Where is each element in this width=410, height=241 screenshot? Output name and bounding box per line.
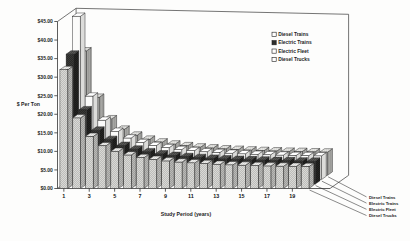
bar-diesel-trains-p12: [200, 160, 213, 188]
bar-diesel-trains-p3: [85, 133, 98, 188]
chart-canvas: $0.00$5.00$10.00$15.00$20.00$25.00$30.00…: [0, 0, 410, 241]
bar-diesel-trains-p18: [276, 163, 289, 189]
bar-diesel-trains-p7: [136, 154, 149, 188]
x-axis-title: Study Period (years): [161, 211, 212, 217]
legend-label: Electric Fleet: [278, 49, 309, 54]
legend-label: Diesel Trains: [278, 32, 308, 37]
bar-diesel-trains-p6: [123, 152, 136, 189]
chart-screenshot: $0.00$5.00$10.00$15.00$20.00$25.00$30.00…: [0, 0, 410, 241]
bar-diesel-trains-p19: [288, 163, 301, 189]
x-tick-label: 9: [164, 193, 167, 199]
legend-item-diesel-trains: Diesel Trains: [272, 32, 309, 37]
side-label-text: Electric Trains: [369, 201, 399, 206]
legend-label: Diesel Trucks: [278, 57, 310, 62]
legend-item-diesel-trucks: Diesel Trucks: [272, 57, 310, 62]
bar-diesel-trains-p16: [250, 162, 263, 188]
y-tick-label: $5.00: [40, 167, 53, 173]
x-tick-label: 15: [239, 193, 245, 199]
bar-diesel-trains-p17: [263, 163, 276, 189]
series-side-labels: Diesel TrainsElectric TrainsElectric Fle…: [309, 177, 398, 218]
y-tick-label: $10.00: [38, 148, 54, 154]
y-axis-title: $ Per Ton: [17, 101, 40, 107]
x-tick-label: 13: [213, 193, 219, 199]
y-tick-label: $35.00: [38, 55, 54, 61]
y-tick-label: $40.00: [38, 37, 54, 43]
x-tick-label: 1: [62, 193, 65, 199]
bar-diesel-trains-p5: [111, 148, 124, 189]
x-tick-label: 5: [113, 193, 116, 199]
bar-diesel-trains-p15: [238, 162, 251, 189]
x-tick-label: 11: [188, 193, 194, 199]
legend-item-electric-trains: Electric Trains: [272, 40, 312, 45]
bar-diesel-trains-p1: [60, 66, 73, 188]
bar-diesel-trains-p4: [98, 142, 111, 188]
bar-diesel-trains-p10: [174, 159, 187, 189]
y-tick-label: $25.00: [38, 93, 54, 99]
bar-diesel-trains-p11: [187, 159, 200, 188]
y-axis-ticks: $0.00$5.00$10.00$15.00$20.00$25.00$30.00…: [38, 18, 58, 191]
side-label-text: Diesel Trucks: [369, 213, 397, 218]
x-tick-label: 7: [139, 193, 142, 199]
bar-diesel-trains-p9: [161, 158, 174, 189]
bar-chart-3d: $0.00$5.00$10.00$15.00$20.00$25.00$30.00…: [0, 0, 410, 241]
y-tick-label: $20.00: [38, 111, 54, 117]
legend-label: Electric Trains: [278, 40, 312, 45]
x-tick-label: 17: [264, 193, 270, 199]
x-tick-label: 3: [88, 193, 91, 199]
legend-item-electric-fleet: Electric Fleet: [272, 49, 309, 54]
bar-diesel-trains-p8: [149, 156, 162, 188]
bar-group-layer: [60, 13, 333, 189]
chart-legend: Diesel TrainsElectric TrainsElectric Fle…: [272, 32, 312, 62]
y-tick-label: $0.00: [40, 185, 53, 191]
y-tick-label: $30.00: [38, 74, 54, 80]
x-axis-ticks: 135791113151719: [62, 189, 295, 200]
side-label-text: Diesel Trains: [369, 195, 396, 200]
y-tick-label: $15.00: [38, 130, 54, 136]
bar-diesel-trains-p14: [225, 162, 238, 189]
bar-diesel-trains-p20: [301, 163, 314, 188]
bar-diesel-trains-p2: [73, 115, 86, 189]
y-tick-label: $45.00: [38, 18, 54, 24]
bar-diesel-trains-p13: [212, 161, 225, 189]
side-label-text: Electric Fleet: [369, 207, 396, 212]
x-tick-label: 19: [289, 193, 295, 199]
